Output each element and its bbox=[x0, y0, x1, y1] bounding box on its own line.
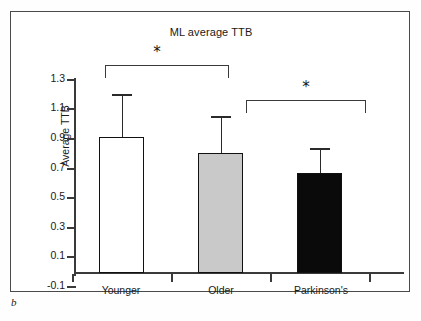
x-axis-tick bbox=[72, 274, 74, 282]
error-bar-cap-younger bbox=[112, 94, 132, 96]
panel-label: b bbox=[11, 296, 17, 308]
x-category-label-parkinsons: Parkinson's bbox=[276, 284, 366, 296]
y-axis-line bbox=[74, 78, 76, 276]
y-tick-label: 0.7 bbox=[25, 161, 65, 173]
y-tick-label: 0.3 bbox=[25, 220, 65, 232]
significance-asterisk-2: * bbox=[286, 80, 326, 95]
y-tick-label: 1.3 bbox=[25, 72, 65, 84]
significance-bracket-1 bbox=[105, 65, 229, 78]
bar-younger bbox=[99, 137, 144, 273]
figure-panel: ML average TTB Average TTB 1.3 1.1 0.9 0… bbox=[0, 0, 421, 321]
x-axis-tick bbox=[171, 274, 173, 282]
x-category-label-older: Older bbox=[181, 284, 261, 296]
y-tick-label: 0.1 bbox=[25, 249, 65, 261]
chart-title: ML average TTB bbox=[11, 26, 411, 38]
significance-bracket-2 bbox=[246, 100, 366, 113]
error-bar-cap-older bbox=[211, 116, 231, 118]
y-tick-label: 0.9 bbox=[25, 131, 65, 143]
x-axis-tick bbox=[369, 274, 371, 282]
bar-parkinsons bbox=[297, 173, 342, 273]
y-tick-label: 0.5 bbox=[25, 190, 65, 202]
y-tick-label: 1.1 bbox=[25, 101, 65, 113]
figure-frame: ML average TTB Average TTB 1.3 1.1 0.9 0… bbox=[10, 11, 410, 292]
error-bar-line-parkinsons bbox=[320, 148, 322, 173]
y-tick-label: -0.1 bbox=[25, 279, 65, 291]
significance-asterisk-1: * bbox=[137, 45, 177, 60]
x-axis-tick bbox=[270, 274, 272, 282]
error-bar-line-younger bbox=[122, 94, 124, 137]
bar-older bbox=[198, 153, 243, 273]
error-bar-cap-parkinsons bbox=[310, 148, 330, 150]
x-category-label-younger: Younger bbox=[81, 284, 161, 296]
error-bar-line-older bbox=[221, 116, 223, 153]
